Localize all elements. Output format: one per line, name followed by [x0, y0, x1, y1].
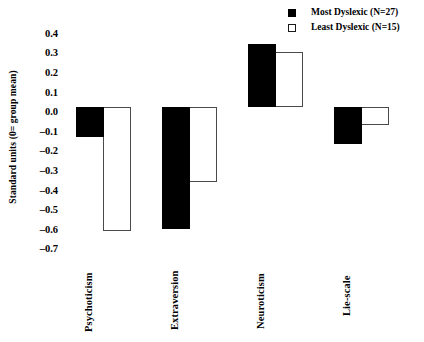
- plot-area: [62, 22, 362, 240]
- y-tick-label: –0.4: [22, 186, 58, 196]
- y-tick-label: 0.1: [22, 88, 58, 98]
- bar-chart: Standard units (0= group mean) 0.4 0.3 0…: [0, 0, 424, 342]
- y-tick-label: –0.7: [22, 244, 58, 254]
- open-square-icon: [288, 24, 296, 32]
- y-tick-label: –0.2: [22, 146, 58, 156]
- y-tick-label: 0.0: [22, 107, 58, 117]
- x-tick-label-lie-scale: Lie-scale: [341, 275, 352, 316]
- legend-label: Most Dyslexic (N=27): [311, 7, 398, 17]
- bar-group-psychoticism: [76, 22, 140, 240]
- legend-item-least-dyslexic: Least Dyslexic (N=15): [288, 21, 424, 35]
- y-tick-label: –0.6: [22, 225, 58, 235]
- x-tick-label-extraversion: Extraversion: [169, 270, 180, 330]
- bar-least-dyslexic: [361, 107, 389, 125]
- y-tick-label: –0.5: [22, 205, 58, 215]
- bar-most-dyslexic: [76, 107, 104, 137]
- legend: Most Dyslexic (N=27) Least Dyslexic (N=1…: [288, 6, 424, 36]
- bar-least-dyslexic: [189, 107, 217, 182]
- bar-group-neuroticism: [248, 22, 312, 240]
- y-tick-label: 0.4: [22, 29, 58, 39]
- bar-least-dyslexic: [103, 107, 131, 231]
- filled-square-icon: [288, 9, 296, 17]
- bar-least-dyslexic: [275, 52, 303, 107]
- y-tick-label: –0.3: [22, 166, 58, 176]
- bar-group-lie-scale: [334, 22, 398, 240]
- y-tick-label: 0.2: [22, 68, 58, 78]
- y-tick-label: –0.1: [22, 127, 58, 137]
- y-tick-label: 0.3: [22, 48, 58, 58]
- bar-most-dyslexic: [248, 44, 276, 107]
- x-tick-label-neuroticism: Neuroticism: [255, 273, 266, 329]
- x-tick-label-psychoticism: Psychoticism: [83, 272, 94, 332]
- bar-group-extraversion: [162, 22, 226, 240]
- legend-label: Least Dyslexic (N=15): [311, 22, 400, 32]
- bar-most-dyslexic: [162, 107, 190, 229]
- legend-item-most-dyslexic: Most Dyslexic (N=27): [288, 6, 424, 20]
- bar-most-dyslexic: [334, 107, 362, 144]
